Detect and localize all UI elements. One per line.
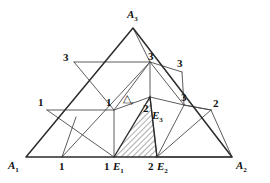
vertex-label-center-3: 3 xyxy=(148,51,154,62)
vertex-label-hatch-2: 2 xyxy=(143,103,149,114)
point-label-e1: E1 xyxy=(113,161,124,175)
vertex-label-right-3: 3 xyxy=(181,92,187,103)
vertex-label-bottom-1b: 1 xyxy=(104,161,110,172)
vertex-label-upper-left-3: 3 xyxy=(63,52,69,63)
vertex-label-left-1: 1 xyxy=(38,97,44,108)
vertex-label-mid-1: 1 xyxy=(106,97,112,108)
vertex-label-a1: A1 xyxy=(8,160,19,174)
vertex-label-a3: A3 xyxy=(127,9,138,23)
vertex-label-right-2: 2 xyxy=(213,98,219,109)
triangle-subdivision-figure: A1 A2 A3 1 1 E1 2 E2 1 1 2 3 2 3 3 3 E3 … xyxy=(0,0,270,183)
diagram-canvas xyxy=(0,0,270,183)
vertex-label-bottom-2: 2 xyxy=(148,161,154,172)
point-label-e3: E3 xyxy=(152,110,163,124)
point-label-e2: E2 xyxy=(157,161,168,175)
vertex-label-bottom-1a: 1 xyxy=(59,161,65,172)
region-label-triangle-r: △r xyxy=(123,93,134,107)
vertex-label-upper-right-3: 3 xyxy=(177,58,183,69)
vertex-label-a2: A2 xyxy=(236,160,247,174)
